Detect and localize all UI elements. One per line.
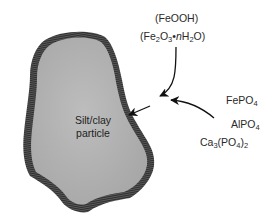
diagram-canvas: [0, 0, 274, 224]
adsorption-arrow: [129, 106, 150, 115]
phosphate-arrow: [171, 100, 214, 118]
formula-part: Ca: [200, 136, 213, 148]
subscript: 2: [244, 141, 248, 150]
formula-part: (PO: [218, 136, 237, 148]
hydrous-iron-oxide-label: (Fe2O3•nH2O): [140, 31, 205, 42]
ca3po42-label: Ca3(PO4)2: [200, 137, 248, 148]
formula-part: O): [194, 30, 206, 42]
fepo4-label: FePO4: [226, 95, 258, 106]
particle-label-line1: Silt/clay: [58, 114, 128, 127]
subscript: 4: [256, 123, 260, 132]
formula-part: O: [160, 30, 168, 42]
formula-part: (Fe: [140, 30, 156, 42]
particle-label: Silt/clay particle: [58, 114, 128, 140]
formula-part: FePO: [226, 94, 253, 106]
iron-oxide-arrow: [160, 47, 176, 96]
formula-part: AlPO: [231, 118, 256, 130]
subscript: 4: [253, 99, 257, 108]
feooh-label: (FeOOH): [155, 13, 198, 24]
alpo4-label: AlPO4: [231, 119, 260, 130]
particle-label-line2: particle: [58, 127, 128, 140]
